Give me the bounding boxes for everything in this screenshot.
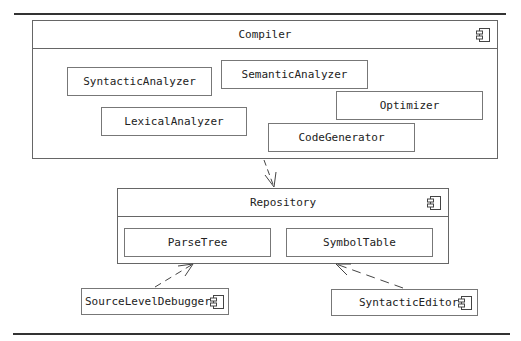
component-icon — [476, 28, 490, 42]
part-optimizer[interactable]: Optimizer — [336, 91, 483, 120]
part-lexical-analyzer[interactable]: LexicalAnalyzer — [101, 107, 247, 136]
arrowhead-icon — [265, 172, 276, 187]
part-label: CodeGenerator — [298, 131, 384, 144]
part-symbol-table[interactable]: SymbolTable — [286, 228, 433, 257]
component-icon — [458, 296, 472, 310]
compiler-header: Compiler — [33, 21, 497, 49]
compiler-title: Compiler — [239, 28, 292, 41]
part-code-generator[interactable]: CodeGenerator — [268, 123, 415, 152]
part-label: LexicalAnalyzer — [124, 115, 223, 128]
part-label: ParseTree — [168, 236, 228, 249]
part-label: SyntacticAnalyzer — [83, 75, 196, 88]
part-semantic-analyzer[interactable]: SemanticAnalyzer — [221, 60, 368, 89]
component-label: SyntacticEditor — [359, 296, 458, 309]
top-rule — [14, 13, 506, 15]
part-parse-tree[interactable]: ParseTree — [124, 228, 271, 257]
part-label: SymbolTable — [323, 236, 396, 249]
dependency-debugger-parsetree — [155, 264, 193, 287]
part-label: SemanticAnalyzer — [242, 68, 348, 81]
bottom-rule — [13, 333, 510, 335]
repository-header: Repository — [118, 189, 448, 217]
dependency-compiler-repository — [264, 160, 274, 187]
source-level-debugger-component[interactable]: SourceLevelDebugger — [81, 288, 229, 315]
arrowhead-icon — [336, 264, 351, 275]
part-label: Optimizer — [380, 99, 440, 112]
component-label: SourceLevelDebugger — [85, 295, 211, 308]
repository-title: Repository — [250, 196, 316, 209]
arrowhead-icon — [178, 264, 193, 276]
part-syntactic-analyzer[interactable]: SyntacticAnalyzer — [67, 67, 212, 96]
syntactic-editor-component[interactable]: SyntacticEditor — [331, 289, 478, 316]
component-icon — [210, 295, 224, 309]
dependency-editor-symboltable — [336, 264, 403, 288]
component-icon — [427, 196, 441, 210]
